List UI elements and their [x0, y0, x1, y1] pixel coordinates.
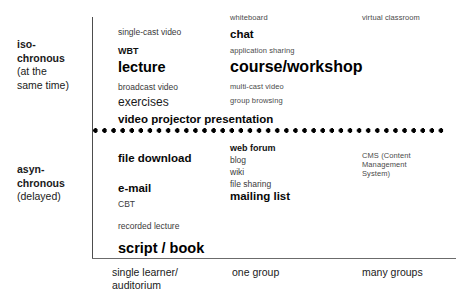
item-mailing-list: mailing list — [230, 190, 290, 204]
vertical-axis-line — [92, 17, 93, 258]
row-label-isochronous-line1: iso- — [17, 38, 69, 52]
row-label-asynchronous-line1: asyn- — [17, 163, 65, 177]
row-label-asynchronous-note1: (delayed) — [17, 190, 65, 204]
item-wbt: WBT — [118, 46, 139, 57]
row-label-isochronous-note1: (at the — [17, 65, 69, 79]
item-application-sharing: application sharing — [230, 47, 294, 56]
row-label-isochronous: iso- chronous (at the same time) — [17, 38, 69, 93]
item-group-browsing: group browsing — [230, 97, 283, 106]
row-label-isochronous-line2: chronous — [17, 52, 69, 66]
item-exercises: exercises — [118, 95, 169, 109]
dotted-row-divider — [93, 128, 446, 133]
item-cbt: CBT — [118, 199, 135, 209]
row-label-isochronous-note2: same time) — [17, 79, 69, 93]
item-file-download: file download — [118, 152, 191, 166]
item-blog: blog — [230, 155, 246, 165]
item-multi-cast-video: multi-cast video — [230, 83, 284, 92]
item-recorded-lecture: recorded lecture — [118, 221, 179, 231]
item-wiki: wiki — [230, 167, 244, 177]
item-file-sharing: file sharing — [230, 179, 271, 189]
item-virtual-classroom: virtual classroom — [362, 14, 420, 23]
column-label-many-groups: many groups — [362, 266, 423, 279]
column-label-single-learner-line1: single learner/ — [112, 266, 212, 279]
item-broadcast-video: broadcast video — [118, 82, 178, 92]
item-course-workshop: course/workshop — [230, 58, 362, 77]
item-lecture: lecture — [118, 59, 166, 76]
row-label-asynchronous-line2: chronous — [17, 177, 65, 191]
item-single-cast-video: single-cast video — [118, 27, 181, 37]
column-label-one-group: one group — [232, 266, 279, 279]
horizontal-axis-line — [92, 258, 456, 259]
item-script-book: script / book — [118, 240, 204, 257]
column-label-single-learner: single learner/ auditorium — [112, 266, 212, 292]
item-web-forum: web forum — [230, 143, 276, 154]
item-e-mail: e-mail — [118, 182, 151, 196]
item-whiteboard: whiteboard — [230, 14, 268, 23]
column-label-single-learner-line2: auditorium — [112, 279, 212, 292]
diagram-canvas: iso- chronous (at the same time) asyn- c… — [0, 0, 472, 307]
item-cms: CMS (Content Management System) — [362, 152, 430, 179]
item-video-projector-presentation: video projector presentation — [118, 113, 273, 127]
item-chat: chat — [230, 28, 254, 42]
row-label-asynchronous: asyn- chronous (delayed) — [17, 163, 65, 204]
